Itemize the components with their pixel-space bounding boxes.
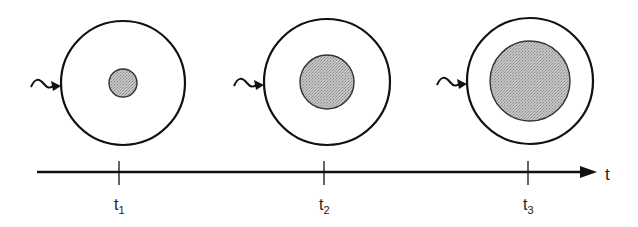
arrowhead-icon bbox=[254, 80, 264, 90]
axis-arrowhead-icon bbox=[580, 166, 597, 178]
inner-core bbox=[490, 41, 570, 121]
wavy-arrow-icon bbox=[31, 80, 54, 88]
growth-diagram: t1t2t3t bbox=[0, 0, 638, 227]
inner-core bbox=[300, 55, 354, 109]
tick-label: t3 bbox=[523, 196, 534, 216]
time-axis: t1t2t3t bbox=[37, 161, 610, 216]
stage-1 bbox=[31, 21, 185, 145]
stage-3 bbox=[437, 18, 593, 144]
arrowhead-icon bbox=[51, 81, 61, 91]
stage-2 bbox=[234, 19, 390, 145]
arrowhead-icon bbox=[457, 79, 467, 89]
tick-label: t1 bbox=[114, 196, 125, 216]
tick-label: t2 bbox=[319, 196, 330, 216]
wavy-arrow-icon bbox=[234, 79, 257, 87]
inner-core bbox=[109, 69, 137, 97]
wavy-arrow-icon bbox=[437, 78, 460, 86]
axis-label: t bbox=[605, 165, 610, 184]
